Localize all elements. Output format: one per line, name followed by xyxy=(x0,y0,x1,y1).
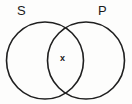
set-label-p: P xyxy=(98,4,107,17)
intersection-mark-x: x xyxy=(60,54,65,63)
circle-set-s xyxy=(7,22,84,99)
set-label-s: S xyxy=(17,4,26,17)
venn-diagram: S P x xyxy=(0,0,132,104)
